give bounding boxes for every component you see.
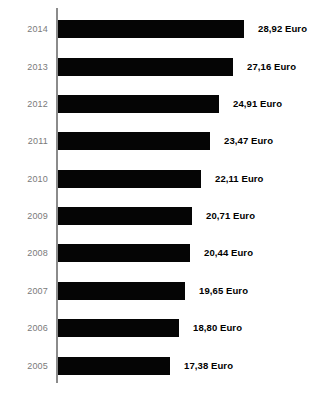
bar-2011: [58, 132, 210, 150]
category-label-2008: 2008: [0, 244, 48, 262]
value-label-2005: 17,38 Euro: [184, 357, 233, 375]
bar-row: 2008 20,44 Euro: [0, 244, 318, 262]
category-label-2012: 2012: [0, 95, 48, 113]
bar-2008: [58, 244, 190, 262]
category-label-2009: 2009: [0, 207, 48, 225]
bar-2012: [58, 95, 219, 113]
category-label-2010: 2010: [0, 170, 48, 188]
bar-2009: [58, 207, 192, 225]
bar-2013: [58, 58, 233, 76]
value-label-2008: 20,44 Euro: [204, 244, 253, 262]
bar-row: 2013 27,16 Euro: [0, 58, 318, 76]
value-label-2007: 19,65 Euro: [199, 282, 248, 300]
bar-row: 2014 28,92 Euro: [0, 20, 318, 38]
bar-row: 2005 17,38 Euro: [0, 357, 318, 375]
category-label-2006: 2006: [0, 319, 48, 337]
category-label-2005: 2005: [0, 357, 48, 375]
category-label-2007: 2007: [0, 282, 48, 300]
bar-2005: [58, 357, 170, 375]
bar-2006: [58, 319, 179, 337]
value-label-2006: 18,80 Euro: [193, 319, 242, 337]
category-label-2011: 2011: [0, 132, 48, 150]
bar-row: 2012 24,91 Euro: [0, 95, 318, 113]
value-label-2014: 28,92 Euro: [258, 20, 307, 38]
bar-2014: [58, 20, 244, 38]
value-label-2011: 23,47 Euro: [224, 132, 273, 150]
bar-row: 2009 20,71 Euro: [0, 207, 318, 225]
bar-row: 2006 18,80 Euro: [0, 319, 318, 337]
bar-row: 2010 22,11 Euro: [0, 170, 318, 188]
category-label-2014: 2014: [0, 20, 48, 38]
bar-chart: 2014 28,92 Euro 2013 27,16 Euro 2012 24,…: [0, 0, 318, 403]
value-label-2010: 22,11 Euro: [215, 170, 264, 188]
bar-row: 2011 23,47 Euro: [0, 132, 318, 150]
bar-row: 2007 19,65 Euro: [0, 282, 318, 300]
category-label-2013: 2013: [0, 58, 48, 76]
value-label-2013: 27,16 Euro: [247, 58, 296, 76]
value-label-2009: 20,71 Euro: [206, 207, 255, 225]
bar-2010: [58, 170, 201, 188]
bar-2007: [58, 282, 185, 300]
value-label-2012: 24,91 Euro: [233, 95, 282, 113]
